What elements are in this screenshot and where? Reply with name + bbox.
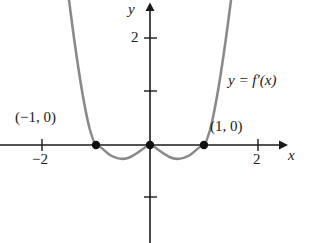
annotation-curve-equation: y = f′(x) — [228, 73, 276, 88]
x-tick-label-minus-2: −2 — [32, 152, 48, 167]
x-tick-label-2: 2 — [253, 152, 261, 167]
annotation-point-minus-one: (−1, 0) — [15, 110, 56, 125]
point-origin — [146, 141, 154, 149]
y-tick-label-2: 2 — [131, 30, 139, 45]
y-axis-label: y — [128, 2, 135, 17]
derivative-graph-figure: y x 2 −2 2 (−1, 0) (1, 0) y = f′(x) — [0, 0, 320, 243]
point-minus-one — [92, 141, 100, 149]
x-axis-label: x — [288, 148, 295, 163]
annotation-point-one: (1, 0) — [210, 119, 243, 134]
point-one — [200, 141, 208, 149]
